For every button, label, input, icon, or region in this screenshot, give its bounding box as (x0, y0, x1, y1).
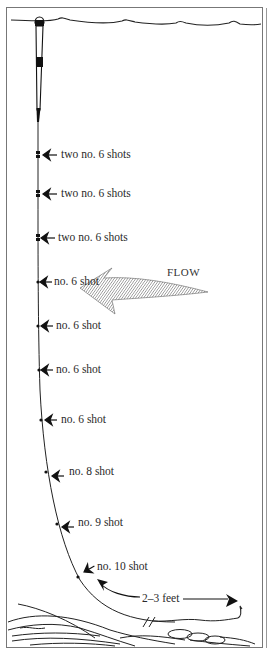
shot-label-8: no. 8 shot (69, 466, 114, 478)
diagram-drawing (0, 0, 275, 653)
shot-label-9: no. 9 shot (78, 517, 123, 529)
distance-arrowhead-left (97, 579, 108, 591)
water-surface (11, 18, 261, 25)
float-icon (35, 17, 44, 122)
riverbed (8, 604, 255, 646)
shot-label-2: two no. 6 shots (61, 188, 131, 200)
distance-label: 2–3 feet (142, 593, 179, 605)
shot-label-6: no. 6 shot (56, 364, 101, 376)
shot-label-4: no. 6 shot (54, 276, 99, 288)
float-rig-diagram: two no. 6 shots two no. 6 shots two no. … (0, 0, 275, 653)
shot-label-1: two no. 6 shots (61, 149, 131, 161)
line-break-mark (143, 617, 155, 627)
shot-label-10: no. 10 shot (97, 561, 148, 573)
distance-arrowhead-right (226, 594, 238, 607)
shot-label-5: no. 6 shot (56, 320, 101, 332)
shot-label-7: no. 6 shot (61, 414, 106, 426)
tippet-line (152, 618, 238, 621)
flow-label: FLOW (167, 267, 200, 278)
shot-label-3: two no. 6 shots (58, 232, 128, 244)
hook-icon (238, 606, 242, 618)
